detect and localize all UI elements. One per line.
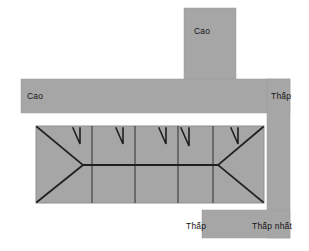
middle-horizontal-band: [21, 79, 290, 113]
label-thap-nhat: Thấp nhất: [252, 222, 292, 231]
fishbone-panel: [36, 126, 264, 203]
label-thap-right: Thấp: [271, 92, 291, 101]
top-vertical-band: [184, 8, 236, 80]
diagram-svg: [0, 0, 309, 251]
figure-canvas: Cao Cao Thấp Thấp Thấp nhất: [0, 0, 309, 251]
label-cao-top: Cao: [194, 27, 210, 36]
label-cao-left: Cao: [27, 92, 43, 101]
label-thap-bottom: Thấp: [186, 222, 206, 231]
